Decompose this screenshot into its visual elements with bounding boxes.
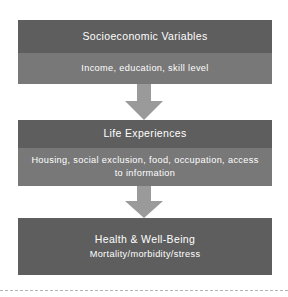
node-health-well-being: Health & Well-Being Mortality/morbidity/… xyxy=(18,218,272,275)
arrow-down-icon xyxy=(122,186,166,218)
node-socioeconomic-variables-subtitle: Income, education, skill level xyxy=(18,53,272,84)
node-health-well-being-subtitle: Mortality/morbidity/stress xyxy=(90,248,201,261)
node-socioeconomic-variables: Socioeconomic Variables Income, educatio… xyxy=(18,20,272,84)
node-socioeconomic-variables-title: Socioeconomic Variables xyxy=(18,20,272,53)
node-health-well-being-title: Health & Well-Being xyxy=(95,233,195,246)
flow-diagram: Socioeconomic Variables Income, educatio… xyxy=(0,0,288,297)
arrow-down-socioeconomic-to-life-experiences xyxy=(122,84,166,120)
bottom-divider xyxy=(0,290,288,291)
arrow-down-icon xyxy=(122,84,166,120)
arrow-down-life-experiences-to-health xyxy=(122,186,166,218)
node-life-experiences-subtitle: Housing, social exclusion, food, occupat… xyxy=(18,148,272,186)
node-life-experiences: Life Experiences Housing, social exclusi… xyxy=(18,120,272,186)
node-life-experiences-title: Life Experiences xyxy=(18,120,272,148)
